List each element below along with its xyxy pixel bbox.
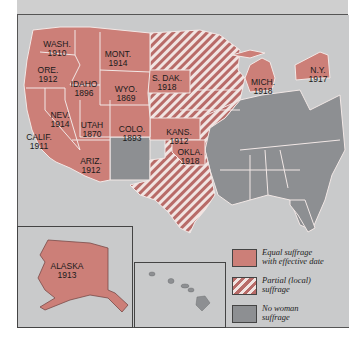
label-alaska: ALASKA1913 [50, 262, 83, 280]
state-new-mexico [110, 137, 150, 180]
swatch-partial [232, 277, 257, 295]
label-mich: MICH.1918 [251, 78, 275, 96]
hawaii-inset [134, 262, 226, 328]
label-idaho: IDAHO1896 [71, 80, 98, 98]
label-sdak: S. DAK.1918 [152, 74, 182, 92]
legend: Equal suffragewith effective date Partia… [232, 248, 348, 332]
label-mont: MONT.1914 [105, 50, 131, 68]
label-ny: N.Y.1917 [309, 66, 328, 84]
label-ore: ORE.1912 [38, 66, 59, 84]
legend-item-equal: Equal suffragewith effective date [232, 248, 348, 272]
label-wyo: WYO.1869 [115, 85, 138, 103]
legend-item-partial: Partial (local)suffrage [232, 276, 348, 300]
label-nev: NEV.1914 [50, 111, 69, 129]
swatch-none [232, 305, 257, 323]
label-ariz: ARIZ.1912 [80, 157, 102, 175]
label-colo: COLO.1893 [119, 125, 145, 143]
label-wash: WASH.1910 [43, 40, 71, 58]
legend-item-none: No womansuffrage [232, 304, 348, 328]
label-kans: KANS.1912 [166, 128, 192, 146]
label-utah: UTAH1870 [81, 121, 104, 139]
label-okla: OKLA.1918 [177, 148, 202, 166]
label-calif: CALIF.1911 [26, 133, 52, 151]
swatch-equal [232, 249, 257, 267]
